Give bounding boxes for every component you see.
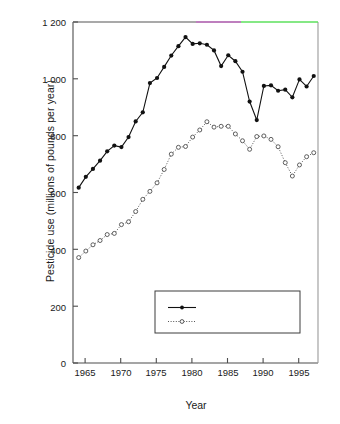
data-point <box>255 135 259 139</box>
data-point <box>162 65 166 69</box>
data-point <box>276 145 280 149</box>
data-point <box>233 132 237 136</box>
data-point <box>169 53 173 57</box>
data-point <box>119 223 123 227</box>
data-point <box>262 134 266 138</box>
data-point <box>233 59 237 63</box>
data-point <box>141 197 145 201</box>
data-point <box>77 256 81 260</box>
y-axis-ticks <box>73 22 78 363</box>
series-agricultural-pesticides <box>77 120 316 260</box>
data-point <box>134 210 138 214</box>
data-point <box>297 163 301 167</box>
data-point <box>205 120 209 124</box>
data-point <box>297 77 301 81</box>
data-point <box>255 118 259 122</box>
series-total-pesticides <box>77 35 316 190</box>
data-point <box>141 110 145 114</box>
data-point <box>226 124 230 128</box>
data-point <box>219 124 223 128</box>
plot-canvas <box>0 0 340 424</box>
data-point <box>212 48 216 52</box>
data-point <box>119 145 123 149</box>
data-point <box>91 167 95 171</box>
data-point <box>262 84 266 88</box>
data-point <box>77 186 81 190</box>
data-point <box>112 144 116 148</box>
data-point <box>84 175 88 179</box>
data-point <box>148 189 152 193</box>
data-point <box>84 249 88 253</box>
series-line <box>79 37 314 188</box>
data-point <box>184 144 188 148</box>
data-point <box>155 181 159 185</box>
data-point <box>305 84 309 88</box>
data-point <box>91 243 95 247</box>
series-line <box>79 122 314 258</box>
data-point <box>248 99 252 103</box>
data-point <box>212 125 216 129</box>
data-point <box>290 95 294 99</box>
data-point <box>269 137 273 141</box>
data-point <box>191 135 195 139</box>
data-point <box>169 152 173 156</box>
pesticide-use-chart: Pesticide use (millions of pounds per ye… <box>0 0 340 424</box>
data-point <box>126 135 130 139</box>
data-point <box>269 83 273 87</box>
data-point <box>155 76 159 80</box>
data-point <box>176 44 180 48</box>
data-point <box>312 151 316 155</box>
data-point <box>105 233 109 237</box>
data-point <box>183 35 187 39</box>
data-point <box>226 53 230 57</box>
data-point <box>134 119 138 123</box>
data-point <box>112 231 116 235</box>
data-point <box>98 159 102 163</box>
data-point <box>240 70 244 74</box>
legend-box <box>155 291 300 333</box>
data-point <box>276 89 280 93</box>
data-point <box>283 161 287 165</box>
data-point <box>162 167 166 171</box>
data-point <box>241 139 245 143</box>
x-axis-ticks <box>85 358 299 363</box>
data-point <box>198 41 202 45</box>
data-point <box>283 88 287 92</box>
data-point <box>205 43 209 47</box>
data-point <box>98 239 102 243</box>
data-point <box>191 42 195 46</box>
data-point <box>305 155 309 159</box>
data-point <box>198 128 202 132</box>
data-point <box>290 174 294 178</box>
data-point <box>248 147 252 151</box>
data-point <box>312 74 316 78</box>
data-point <box>127 220 131 224</box>
data-point <box>148 81 152 85</box>
data-point <box>105 149 109 153</box>
data-point <box>176 145 180 149</box>
data-point <box>219 64 223 68</box>
